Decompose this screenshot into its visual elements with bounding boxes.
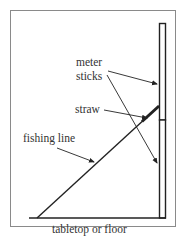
diagram-frame <box>11 11 176 227</box>
meter-stick-lower <box>160 120 166 218</box>
arrow-meter-sticks-upper <box>108 71 157 84</box>
label-meter: meter <box>76 56 102 68</box>
straw <box>142 106 159 122</box>
label-tabletop-or-floor: tabletop or floor <box>52 223 127 236</box>
label-straw: straw <box>75 103 101 115</box>
experiment-diagram: meter sticks straw fishing line tabletop… <box>0 0 186 239</box>
label-sticks: sticks <box>76 70 103 82</box>
arrow-fishing-line <box>57 148 94 162</box>
arrow-straw <box>104 110 147 118</box>
meter-stick-upper <box>160 24 166 121</box>
fishing-line <box>37 106 159 218</box>
label-fishing-line: fishing line <box>23 132 75 145</box>
arrow-meter-sticks-lower <box>107 75 157 163</box>
